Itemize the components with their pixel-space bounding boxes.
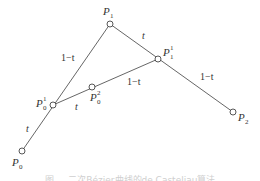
svg-text:P: P bbox=[35, 97, 43, 109]
point-p1-1 bbox=[155, 56, 161, 62]
svg-text:P: P bbox=[237, 111, 245, 123]
point-p2 bbox=[230, 109, 236, 115]
svg-text:0: 0 bbox=[43, 104, 47, 112]
svg-text:2: 2 bbox=[97, 89, 101, 97]
weight-p11-p2: 1−t bbox=[200, 71, 214, 82]
edge-p01-p11 bbox=[53, 59, 158, 105]
label-p1-1: P 1 1 bbox=[162, 44, 174, 61]
label-p0: P 0 bbox=[11, 156, 23, 171]
svg-text:P: P bbox=[11, 156, 19, 168]
svg-text:P: P bbox=[89, 91, 97, 103]
svg-text:P: P bbox=[162, 46, 170, 58]
edge-p0-p1 bbox=[22, 24, 110, 151]
point-p1 bbox=[107, 21, 113, 27]
point-p0-1 bbox=[50, 102, 56, 108]
svg-text:1: 1 bbox=[170, 53, 174, 61]
label-p2: P 2 bbox=[237, 111, 249, 126]
label-p1: P 1 bbox=[102, 5, 114, 20]
label-p0-2: P 0 2 bbox=[89, 89, 101, 106]
de-casteljau-diagram: P 1 P 0 P 2 P 0 1 P 1 1 P 0 2 t 1−t t 1−… bbox=[0, 0, 260, 181]
svg-text:1: 1 bbox=[110, 12, 114, 20]
edge-p1-p2 bbox=[110, 24, 233, 112]
svg-text:1: 1 bbox=[170, 44, 174, 52]
svg-text:0: 0 bbox=[19, 163, 23, 171]
weight-p1-p11: t bbox=[142, 30, 145, 41]
weight-p02-p11: 1−t bbox=[127, 76, 141, 87]
label-p0-1: P 0 1 bbox=[35, 95, 47, 112]
svg-text:0: 0 bbox=[97, 98, 101, 106]
svg-text:1: 1 bbox=[43, 95, 47, 103]
point-p0 bbox=[19, 148, 25, 154]
svg-text:P: P bbox=[102, 5, 110, 17]
figure-caption: 图 … 二次Bézier曲线的de Casteljau算法 bbox=[0, 173, 260, 181]
svg-text:2: 2 bbox=[245, 118, 249, 126]
weight-p01-p02: t bbox=[75, 101, 78, 112]
point-p0-2 bbox=[89, 84, 95, 90]
weight-p01-p1: 1−t bbox=[61, 52, 75, 63]
weight-p0-p01: t bbox=[26, 123, 29, 134]
